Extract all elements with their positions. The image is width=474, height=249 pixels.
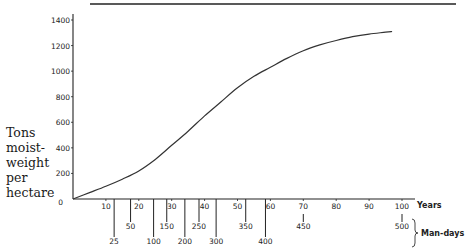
x-axis-label-man-days: Man-days — [421, 229, 464, 238]
man-days-tick-label: 50 — [126, 222, 136, 231]
axes — [73, 14, 415, 199]
y-tick-label: 800 — [56, 93, 71, 102]
x-axis-label-years: Years — [416, 201, 442, 210]
y-tick-label: 1200 — [51, 42, 70, 51]
x-tick-label: 90 — [364, 202, 374, 211]
growth-curve — [73, 32, 392, 200]
man-days-tick-label: 300 — [209, 237, 224, 246]
growth-chart: 0200400600800100012001400 10203040506070… — [0, 0, 474, 249]
x-tick-label: 40 — [200, 202, 210, 211]
man-days-tick-label: 25 — [109, 237, 119, 246]
man-days-tick-label: 350 — [239, 222, 254, 231]
man-days-tick-label: 400 — [258, 237, 273, 246]
man-days-brace — [412, 219, 418, 247]
y-axis-ticks: 0200400600800100012001400 — [51, 16, 73, 207]
x-tick-label: 20 — [134, 202, 144, 211]
x-tick-label: 70 — [299, 202, 309, 211]
x-tick-label: 50 — [233, 202, 243, 211]
man-days-tick-label: 450 — [296, 222, 311, 231]
y-tick-label: 1000 — [51, 67, 70, 76]
y-tick-label: 600 — [56, 118, 71, 127]
man-days-tick-label: 500 — [395, 222, 410, 231]
y-tick-label: 400 — [56, 144, 71, 153]
man-days-tick-label: 150 — [160, 222, 175, 231]
y-tick-label: 200 — [56, 169, 71, 178]
man-days-tick-label: 200 — [178, 237, 193, 246]
x-tick-label: 80 — [331, 202, 341, 211]
x-tick-label: 60 — [266, 202, 276, 211]
x-tick-label: 100 — [395, 202, 410, 211]
y-tick-label: 0 — [58, 198, 63, 207]
x-tick-label: 30 — [167, 202, 177, 211]
x-tick-label: 10 — [101, 202, 111, 211]
y-tick-label: 1400 — [51, 16, 70, 25]
x-axis-ticks: 102030405060708090100 — [101, 199, 409, 211]
man-days-tick-label: 100 — [146, 237, 161, 246]
man-days-tick-label: 250 — [192, 222, 207, 231]
